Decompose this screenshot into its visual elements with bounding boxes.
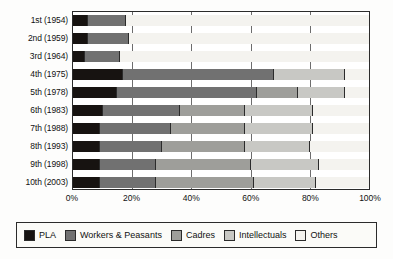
bar-segment-pla <box>73 69 123 80</box>
bar-segment-others <box>316 177 369 188</box>
bar-segment-pla <box>73 15 88 26</box>
bar-segment-intellectuals <box>245 105 313 116</box>
bar-segment-others <box>319 159 369 170</box>
bar-segment-others <box>310 141 369 152</box>
bar-row <box>73 123 369 134</box>
legend-swatch-icon <box>295 230 306 241</box>
legend-item[interactable]: Others <box>295 230 337 241</box>
bar-segment-intellectuals <box>254 177 316 188</box>
bar-segment-others <box>313 123 369 134</box>
bar-segment-others <box>345 87 369 98</box>
chart-root: 1st (1954)2nd (1959)3rd (1964)4th (1975)… <box>0 0 393 259</box>
bar-row <box>73 141 369 152</box>
bar-segment-workers-peasants <box>100 159 156 170</box>
y-axis-label: 3rd (1964) <box>2 51 68 61</box>
y-axis-label: 1st (1954) <box>2 15 68 25</box>
bar-segment-workers-peasants <box>103 105 180 116</box>
y-axis-label: 9th (1998) <box>2 159 68 169</box>
bar-segment-cadres <box>156 177 254 188</box>
bar-segment-workers-peasants <box>100 177 156 188</box>
plot-area <box>72 11 370 190</box>
bar-row <box>73 33 369 44</box>
legend-item[interactable]: Intellectuals <box>224 230 287 241</box>
bar-segment-cadres <box>156 159 251 170</box>
legend-label: PLA <box>39 230 56 240</box>
bar-segment-workers-peasants <box>123 69 274 80</box>
bar-segment-intellectuals <box>245 123 313 134</box>
legend-item[interactable]: Cadres <box>171 230 215 241</box>
bar-segment-pla <box>73 159 100 170</box>
y-axis-label: 5th (1978) <box>2 87 68 97</box>
bar-segment-others <box>120 51 369 62</box>
bar-row <box>73 159 369 170</box>
legend-swatch-icon <box>224 230 235 241</box>
bar-segment-workers-peasants <box>100 141 162 152</box>
bar-segment-pla <box>73 33 88 44</box>
bar-segment-pla <box>73 123 100 134</box>
bar-segment-intellectuals <box>298 87 345 98</box>
y-axis-label: 8th (1993) <box>2 141 68 151</box>
bar-row <box>73 15 369 26</box>
y-axis-label: 7th (1988) <box>2 123 68 133</box>
legend-label: Intellectuals <box>239 230 287 240</box>
legend-swatch-icon <box>171 230 182 241</box>
bar-row <box>73 69 369 80</box>
bar-segment-workers-peasants <box>100 123 171 134</box>
y-axis-label: 4th (1975) <box>2 69 68 79</box>
legend-swatch-icon <box>24 230 35 241</box>
legend-item[interactable]: Workers & Peasants <box>65 230 162 241</box>
bar-segment-workers-peasants <box>88 15 126 26</box>
y-axis-label: 10th (2003) <box>2 177 68 187</box>
legend-label: Workers & Peasants <box>80 230 162 240</box>
x-axis-tick-label: 60% <box>242 193 259 203</box>
bar-segment-intellectuals <box>245 141 310 152</box>
bar-segment-others <box>345 69 369 80</box>
y-axis-label: 6th (1983) <box>2 105 68 115</box>
bar-segment-cadres <box>257 87 298 98</box>
legend-item[interactable]: PLA <box>24 230 56 241</box>
bar-segment-pla <box>73 105 103 116</box>
legend-label: Cadres <box>186 230 215 240</box>
bar-row <box>73 177 369 188</box>
x-axis-tick-label: 0% <box>66 193 78 203</box>
bar-segment-intellectuals <box>274 69 345 80</box>
chart-legend: PLAWorkers & PeasantsCadresIntellectuals… <box>16 222 377 248</box>
bar-segment-intellectuals <box>251 159 319 170</box>
bar-segment-workers-peasants <box>117 87 256 98</box>
bar-segment-others <box>313 105 369 116</box>
x-axis-tick-label: 40% <box>183 193 200 203</box>
legend-swatch-icon <box>65 230 76 241</box>
bar-segment-cadres <box>171 123 245 134</box>
x-axis-tick-label: 20% <box>123 193 140 203</box>
bar-segment-pla <box>73 51 85 62</box>
legend-label: Others <box>310 230 337 240</box>
x-axis-tick-label: 100% <box>359 193 381 203</box>
bar-segment-others <box>126 15 369 26</box>
bar-segment-workers-peasants <box>85 51 121 62</box>
bar-segment-pla <box>73 141 100 152</box>
bar-row <box>73 51 369 62</box>
bar-segment-cadres <box>180 105 245 116</box>
bar-segment-pla <box>73 87 117 98</box>
bar-segment-pla <box>73 177 100 188</box>
bar-row <box>73 87 369 98</box>
bar-row <box>73 105 369 116</box>
x-axis-tick-label: 80% <box>302 193 319 203</box>
bar-segment-cadres <box>162 141 245 152</box>
y-axis-label: 2nd (1959) <box>2 33 68 43</box>
bar-segment-workers-peasants <box>88 33 129 44</box>
bar-segment-others <box>129 33 369 44</box>
